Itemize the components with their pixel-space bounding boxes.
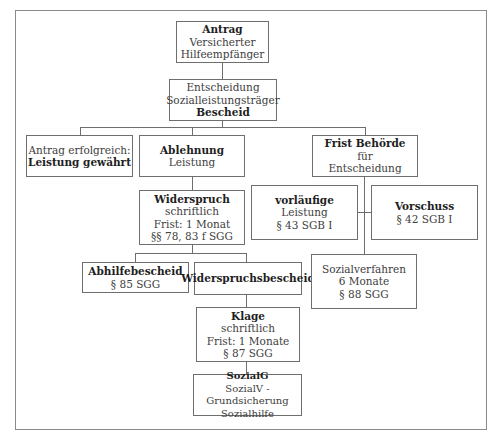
connector-frist-down	[364, 177, 365, 254]
node-vorlaeufige: vorläufige Leistung § 43 SGB I	[251, 185, 358, 240]
node-erfolgreich: Antrag erfolgreich: Leistung gewährt	[26, 135, 133, 177]
connector-bescheid-horizontal	[135, 253, 247, 254]
connector-widerspruchsbescheid-klage	[246, 295, 247, 307]
node-antrag: Antrag Versicherter Hilfeempfänger	[176, 21, 269, 63]
node-line: Entscheidung	[186, 81, 259, 94]
connector-ablehnung-widerspruch	[192, 177, 193, 190]
node-title: Widerspruch	[154, 193, 230, 206]
connector-to-erfolgreich	[80, 127, 81, 135]
node-line: Frist: 1 Monat	[154, 218, 230, 231]
node-widerspruch: Widerspruch schriftlich Frist: 1 Monat §…	[139, 190, 245, 245]
connector-branch-horizontal	[80, 127, 366, 128]
node-line: Sozialhilfe	[221, 408, 274, 421]
node-line: 6 Monate	[339, 275, 390, 288]
node-line: Leistung	[281, 206, 327, 219]
node-frist-behoerde: Frist Behörde für Entscheidung	[312, 135, 418, 177]
node-line: § 87 SGG	[223, 347, 272, 360]
node-line: § 85 SGG	[111, 278, 160, 291]
connector-widerspruch-down	[192, 245, 193, 253]
node-line: § 43 SGB I	[276, 219, 332, 232]
node-sozialg: SozialG SozialV - Grundsicherung Sozialh…	[193, 374, 302, 416]
node-line: für	[357, 150, 373, 163]
node-footer: Bescheid	[196, 106, 250, 119]
node-line: Frist: 1 Monate	[207, 335, 290, 348]
node-line: §§ 78, 83 f SGG	[151, 230, 233, 243]
node-line: Sozialverfahren	[322, 263, 406, 276]
node-line: Versicherter	[190, 36, 256, 49]
node-line: Hilfeempfänger	[181, 48, 265, 61]
node-line: schriftlich	[165, 205, 219, 218]
node-title: vorläufige	[275, 194, 334, 207]
node-widerspruchsbescheid: Widerspruchsbescheid	[194, 262, 302, 295]
node-footer: Leistung gewährt	[28, 156, 131, 169]
node-entscheidung: Entscheidung Sozialleistungsträger Besch…	[169, 79, 277, 121]
connector-to-abhilfe	[135, 253, 136, 262]
node-title: Widerspruchsbescheid	[181, 272, 314, 285]
node-klage: Klage schriftlich Frist: 1 Monate § 87 S…	[196, 307, 300, 362]
connector-to-frist	[365, 127, 366, 135]
connector-to-ablehnung	[192, 127, 193, 135]
node-line: Antrag erfolgreich:	[28, 144, 130, 157]
node-title: Antrag	[202, 23, 242, 36]
node-line: § 88 SGG	[339, 288, 388, 301]
node-line: Leistung	[169, 156, 215, 169]
node-vorschuss: Vorschuss § 42 SGB I	[371, 185, 478, 240]
node-abhilfebescheid: Abhilfebescheid § 85 SGG	[82, 262, 189, 293]
connector-entscheidung-branch	[222, 120, 223, 127]
connector-to-widerspruchsbescheid	[246, 253, 247, 262]
connector-antrag-entscheidung	[222, 62, 223, 79]
node-line: § 42 SGB I	[396, 213, 452, 226]
node-title: SozialG	[226, 370, 268, 383]
node-title: Frist Behörde	[325, 137, 406, 150]
node-sozialverfahren: Sozialverfahren 6 Monate § 88 SGG	[311, 254, 417, 309]
node-title: Ablehnung	[160, 144, 224, 157]
node-title: Vorschuss	[395, 200, 454, 213]
node-line: SozialV - Grundsicherung	[194, 383, 301, 408]
node-title: Abhilfebescheid	[88, 265, 182, 278]
node-line: schriftlich	[221, 322, 275, 335]
node-line: Sozialleistungsträger	[166, 94, 280, 107]
node-line: Entscheidung	[328, 162, 401, 175]
node-title: Klage	[231, 310, 265, 323]
connector-vorlaeufige-vorschuss	[358, 212, 371, 213]
node-ablehnung: Ablehnung Leistung	[139, 135, 245, 177]
